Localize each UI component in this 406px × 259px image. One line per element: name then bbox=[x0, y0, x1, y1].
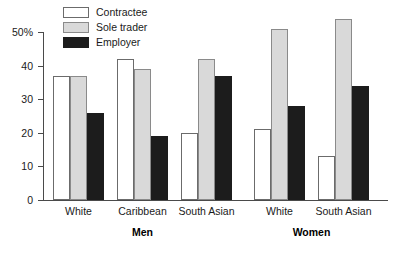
bar-sole-trader bbox=[70, 76, 87, 200]
bar-contractee bbox=[318, 156, 335, 200]
bar-employer bbox=[352, 86, 369, 200]
bar-sole-trader bbox=[198, 59, 215, 200]
legend-swatch-contractee-icon bbox=[63, 7, 89, 18]
y-axis-tick-label: 10 bbox=[21, 161, 33, 171]
x-axis-panel-label: Men bbox=[83, 226, 203, 238]
y-axis-tick bbox=[38, 200, 44, 201]
bar-employer bbox=[288, 106, 305, 200]
y-axis-tick-label: 0 bbox=[27, 195, 33, 205]
y-axis-tick-label: 30 bbox=[21, 94, 33, 104]
bar-contractee bbox=[53, 76, 70, 200]
plot-area bbox=[44, 32, 388, 200]
legend-item-contractee: Contractee bbox=[63, 6, 147, 18]
legend-label-sole-trader: Sole trader bbox=[96, 22, 147, 33]
bar-employer bbox=[151, 136, 168, 200]
y-axis-tick-label: 40 bbox=[21, 61, 33, 71]
bar-group bbox=[53, 32, 104, 200]
x-axis-line bbox=[43, 200, 388, 201]
x-axis-panel-label: Women bbox=[252, 226, 372, 238]
bar-contractee bbox=[181, 133, 198, 200]
bar-group bbox=[117, 32, 168, 200]
y-axis-tick-label: 50% bbox=[12, 27, 33, 37]
bar-sole-trader bbox=[271, 29, 288, 200]
legend-label-contractee: Contractee bbox=[96, 7, 147, 18]
x-axis-category-label: South Asian bbox=[300, 205, 387, 217]
bar-group bbox=[181, 32, 232, 200]
y-axis-tick-label: 20 bbox=[21, 128, 33, 138]
bar-employer bbox=[87, 113, 104, 200]
bar-employer bbox=[215, 76, 232, 200]
legend-swatch-sole-trader-icon bbox=[63, 22, 89, 33]
bar-contractee bbox=[117, 59, 134, 200]
bar-group bbox=[318, 32, 369, 200]
bar-group bbox=[254, 32, 305, 200]
bar-contractee bbox=[254, 129, 271, 200]
bar-sole-trader bbox=[335, 19, 352, 200]
bar-chart: Contractee Sole trader Employer 01020304… bbox=[0, 0, 406, 259]
bar-sole-trader bbox=[134, 69, 151, 200]
